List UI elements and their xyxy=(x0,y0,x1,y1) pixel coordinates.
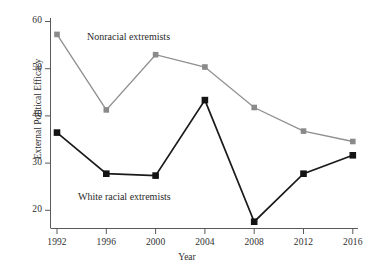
series-nonracial-extremists-markers xyxy=(54,32,355,145)
series-white-racial-extremists-line xyxy=(57,100,353,222)
y-axis-title: External Political Efficacy xyxy=(33,9,43,209)
x-tick-label-1996: 1996 xyxy=(86,237,126,247)
series-nonracial-extremists xyxy=(54,32,355,145)
x-axis-title: Year xyxy=(0,252,374,262)
series-white-racial-extremists xyxy=(54,97,356,225)
x-tick-label-2000: 2000 xyxy=(136,237,176,247)
x-tick-label-2004: 2004 xyxy=(185,237,225,247)
y-axis-ticks xyxy=(45,22,51,211)
chart-figure: 60 50 40 30 20 1992 1996 2000 2004 2008 … xyxy=(0,0,374,273)
line-chart-plot xyxy=(0,0,374,273)
series-nonracial-extremists-line xyxy=(57,34,353,141)
x-tick-label-2012: 2012 xyxy=(284,237,324,247)
x-tick-label-2016: 2016 xyxy=(333,237,373,247)
series-white-racial-extremists-markers xyxy=(54,97,356,225)
x-tick-label-2008: 2008 xyxy=(234,237,274,247)
x-tick-label-1992: 1992 xyxy=(37,237,77,247)
series-label-white-racial-extremists: White racial extremists xyxy=(78,191,171,202)
series-label-nonracial-extremists: Nonracial extremists xyxy=(87,31,170,42)
x-axis-ticks xyxy=(57,229,353,235)
